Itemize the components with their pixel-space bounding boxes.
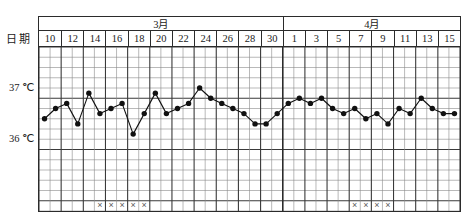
data-point-marker[interactable] [319, 96, 324, 101]
plot-area [39, 47, 460, 211]
date-header-cell: 9 [371, 31, 393, 46]
annotation-x-mark: × [349, 201, 360, 210]
data-point-marker[interactable] [441, 111, 446, 116]
annotation-x-mark: × [128, 201, 139, 210]
chart-svg [39, 47, 460, 211]
cropped-caption-text [8, 0, 258, 9]
date-header-cell: 26 [216, 31, 238, 46]
date-header-cell: 3 [305, 31, 327, 46]
data-point-marker[interactable] [108, 106, 113, 111]
data-point-marker[interactable] [119, 101, 124, 106]
data-point-marker[interactable] [396, 106, 401, 111]
data-point-marker[interactable] [164, 111, 169, 116]
date-header-cell: 7 [349, 31, 371, 46]
date-header-cell: 22 [172, 31, 194, 46]
data-point-marker[interactable] [86, 90, 91, 95]
date-header-cell: 10 [39, 31, 61, 46]
data-point-marker[interactable] [430, 106, 435, 111]
annotation-x-mark: × [382, 201, 393, 210]
data-point-marker[interactable] [286, 101, 291, 106]
annotation-x-mark: × [117, 201, 128, 210]
y-tick-label-36: 36 ℃ [0, 132, 34, 144]
month-header-cell: 4月 [283, 17, 460, 30]
data-point-marker[interactable] [142, 111, 147, 116]
date-header-cell: 28 [238, 31, 260, 46]
data-point-marker[interactable] [252, 121, 257, 126]
month-header-row: 3月4月 [39, 17, 460, 31]
data-point-marker[interactable] [230, 106, 235, 111]
data-point-marker[interactable] [341, 111, 346, 116]
data-point-marker[interactable] [208, 96, 213, 101]
data-point-marker[interactable] [186, 101, 191, 106]
date-header-cell: 1 [283, 31, 305, 46]
data-point-marker[interactable] [275, 111, 280, 116]
data-point-marker[interactable] [385, 121, 390, 126]
data-point-marker[interactable] [407, 111, 412, 116]
data-point-marker[interactable] [97, 111, 102, 116]
data-point-marker[interactable] [42, 116, 47, 121]
month-header-cell: 3月 [39, 17, 283, 30]
data-point-marker[interactable] [297, 96, 302, 101]
date-header-cell: 11 [394, 31, 416, 46]
date-header-cell: 5 [327, 31, 349, 46]
annotation-x-mark: × [360, 201, 371, 210]
data-point-marker[interactable] [330, 106, 335, 111]
data-point-marker[interactable] [363, 116, 368, 121]
date-header-cell: 13 [416, 31, 438, 46]
data-point-marker[interactable] [75, 121, 80, 126]
date-header-row: 101214161820222426283013579111315 [39, 31, 460, 47]
data-point-marker[interactable] [219, 101, 224, 106]
data-point-marker[interactable] [374, 111, 379, 116]
data-point-marker[interactable] [308, 101, 313, 106]
data-point-marker[interactable] [153, 90, 158, 95]
date-header-cell: 30 [261, 31, 283, 46]
data-point-marker[interactable] [263, 121, 268, 126]
date-header-cell: 24 [194, 31, 216, 46]
data-point-marker[interactable] [175, 106, 180, 111]
chart-frame: 3月4月 101214161820222426283013579111315 ×… [38, 16, 461, 212]
annotation-x-mark: × [139, 201, 150, 210]
data-point-marker[interactable] [197, 85, 202, 90]
temperature-chart-page: 日期 37 ℃ 36 ℃ 3月4月 1012141618202224262830… [0, 0, 472, 221]
date-header-cell: 15 [438, 31, 460, 46]
annotation-x-mark: × [371, 201, 382, 210]
data-point-marker[interactable] [130, 131, 135, 136]
data-point-marker[interactable] [452, 111, 457, 116]
data-point-marker[interactable] [352, 106, 357, 111]
y-tick-label-37: 37 ℃ [0, 81, 34, 93]
annotation-x-mark: × [105, 201, 116, 210]
date-header-cell: 20 [150, 31, 172, 46]
data-point-marker[interactable] [64, 101, 69, 106]
date-row-label: 日期 [2, 30, 36, 46]
data-point-marker[interactable] [241, 111, 246, 116]
date-header-cell: 14 [83, 31, 105, 46]
date-header-cell: 16 [105, 31, 127, 46]
data-point-marker[interactable] [53, 106, 58, 111]
gridlines [39, 47, 460, 211]
date-header-cell: 12 [61, 31, 83, 46]
date-header-cell: 18 [128, 31, 150, 46]
data-point-marker[interactable] [419, 96, 424, 101]
annotation-x-mark: × [94, 201, 105, 210]
